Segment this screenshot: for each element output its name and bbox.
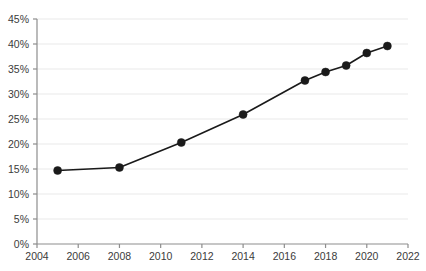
data-point-marker	[342, 62, 350, 70]
x-tick-label: 2004	[25, 250, 49, 262]
data-point-marker	[115, 164, 123, 172]
y-tick-label: 20%	[8, 138, 29, 150]
data-series-line	[58, 46, 388, 171]
x-tick-label: 2014	[231, 250, 255, 262]
y-tick-label: 45%	[8, 13, 29, 25]
x-tick-label: 2022	[396, 250, 420, 262]
y-tick-label: 5%	[14, 213, 29, 225]
y-tick-label: 15%	[8, 163, 29, 175]
series-polyline	[58, 46, 388, 171]
x-tick-labels: 2004200620082010201220142016201820202022	[25, 250, 420, 262]
y-tick-label: 40%	[8, 38, 29, 50]
data-point-marker	[177, 139, 185, 147]
y-tick-label: 0%	[14, 238, 29, 250]
data-point-marker	[301, 77, 309, 85]
y-tick-label: 25%	[8, 113, 29, 125]
data-point-marker	[383, 42, 391, 50]
gridlines-group	[37, 19, 408, 219]
x-tick-label: 2016	[273, 250, 297, 262]
y-tick-label: 10%	[8, 188, 29, 200]
x-tick-label: 2020	[355, 250, 379, 262]
y-tick-label: 30%	[8, 88, 29, 100]
line-chart: 0%5%10%15%20%25%30%35%40%45% 20042006200…	[0, 0, 426, 271]
data-point-marker	[54, 167, 62, 175]
x-tick-label: 2018	[314, 250, 338, 262]
data-point-markers	[54, 42, 392, 175]
y-tick-labels: 0%5%10%15%20%25%30%35%40%45%	[8, 13, 29, 250]
x-tick-label: 2008	[108, 250, 132, 262]
x-tick-label: 2010	[149, 250, 173, 262]
y-axis	[33, 19, 37, 244]
y-tick-label: 35%	[8, 63, 29, 75]
data-point-marker	[363, 49, 371, 57]
x-tick-label: 2006	[67, 250, 91, 262]
x-axis	[37, 244, 408, 248]
x-tick-label: 2012	[190, 250, 214, 262]
data-point-marker	[322, 68, 330, 76]
chart-canvas: 0%5%10%15%20%25%30%35%40%45% 20042006200…	[0, 0, 426, 271]
data-point-marker	[239, 111, 247, 119]
